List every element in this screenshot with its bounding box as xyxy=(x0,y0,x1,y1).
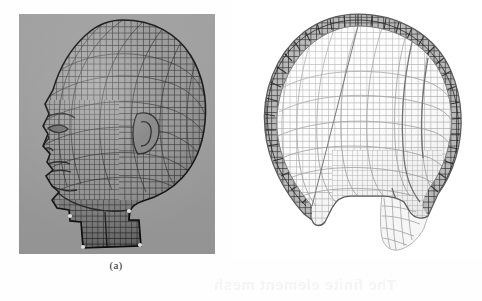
skull-cutaway-drawing xyxy=(232,0,482,258)
figure-root: (a) xyxy=(0,0,482,301)
head-mesh-drawing xyxy=(19,14,215,254)
panel-a-caption: (a) xyxy=(0,259,232,271)
figure-panel-a: (a) xyxy=(0,0,232,272)
figure-panel-b: (b) xyxy=(232,0,482,272)
head-mesh-photo xyxy=(19,14,215,254)
panel-b-caption: (b) xyxy=(464,259,482,271)
page-bleed-through-text: The finite element mesh xyxy=(96,276,396,296)
